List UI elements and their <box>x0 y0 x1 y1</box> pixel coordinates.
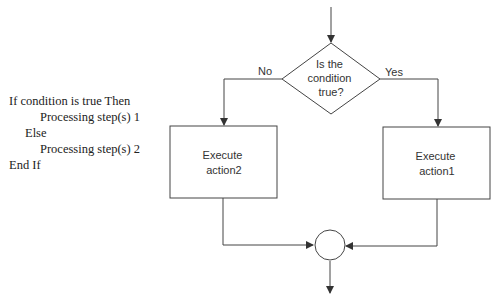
execute-action1-box <box>383 127 490 199</box>
merge-connector-circle <box>315 230 345 260</box>
yes-label: Yes <box>385 66 403 78</box>
right-merge-connector <box>346 199 437 246</box>
no-branch-connector <box>224 79 282 125</box>
execute-action2-box <box>170 126 277 198</box>
no-label: No <box>258 65 272 77</box>
flowchart: Is the condition true? No Yes Execute ac… <box>0 0 498 298</box>
yes-branch-connector <box>380 79 438 126</box>
left-merge-connector <box>223 198 313 245</box>
